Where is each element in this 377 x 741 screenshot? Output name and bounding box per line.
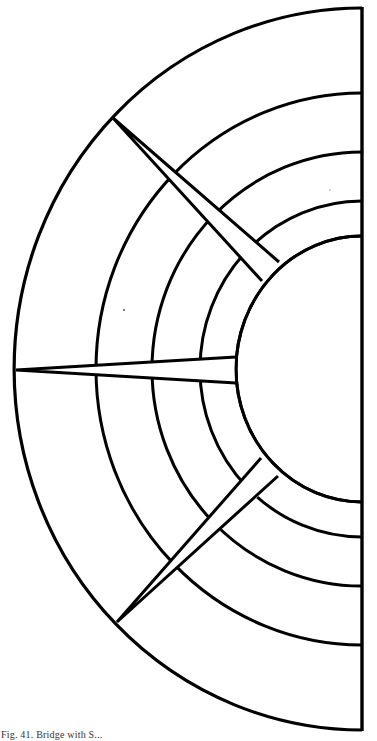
figure-caption: Fig. 41. Bridge with S... — [1, 729, 102, 741]
scan-speck — [123, 309, 125, 311]
inner-circle-overlay — [236, 236, 362, 502]
scan-speck — [329, 189, 331, 191]
